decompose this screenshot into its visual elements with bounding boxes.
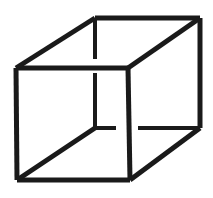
cube-drawing [0,0,213,198]
necker-cube-figure [0,0,213,198]
edge-front-right [128,68,130,180]
edge-front-left [16,68,17,180]
